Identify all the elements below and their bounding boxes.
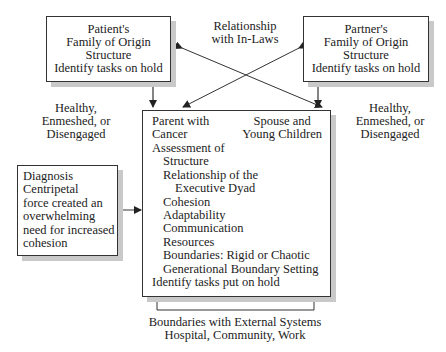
patient-family-of-origin-box: Patient's Family of Origin Structure Ide… [46, 16, 171, 82]
diagnosis-line: Centripetal [23, 183, 117, 196]
health-label-line: Disengaged [36, 128, 116, 141]
assessment-item: Communication [152, 222, 319, 235]
diagnosis-line: force created an [23, 197, 117, 210]
assessment-item: Executive Dyad [152, 182, 319, 195]
central-assessment-box: Parent with Cancer Spouse and Young Chil… [142, 110, 331, 297]
assessment-item: Generational Boundary Setting [152, 263, 319, 276]
diagnosis-line: need for increased [23, 224, 117, 237]
assessment-item: Structure [152, 155, 319, 168]
external-boundary-bracket [157, 300, 314, 310]
right-health-label: Healthy, Enmeshed, or Disengaged [350, 102, 430, 141]
assessment-heading: Assessment of [152, 142, 319, 155]
assessment-list: Assessment of Structure Relationship of … [152, 142, 319, 289]
diagnosis-line: cohesion [23, 237, 117, 250]
health-label-line: Disengaged [350, 128, 430, 141]
parent-line: Parent with [152, 115, 209, 128]
partner-box-line: Identify tasks on hold [304, 62, 428, 75]
diagnosis-box: Diagnosis Centripetal force created an o… [17, 165, 118, 256]
inlaws-label: Relationship with In-Laws [190, 20, 300, 46]
assessment-item: Cohesion [152, 196, 319, 209]
inlaw-arrow-partner-to-parent [183, 48, 299, 107]
assessment-item: Boundaries: Rigid or Chaotic [152, 249, 319, 262]
assessment-footer: Identify tasks put on hold [152, 276, 319, 289]
patient-box-line: Identify tasks on hold [47, 62, 170, 75]
assessment-item: Adaptability [152, 209, 319, 222]
parent-with-cancer-label: Parent with Cancer [152, 115, 209, 142]
partner-family-of-origin-box: Partner's Family of Origin Structure Ide… [303, 16, 429, 82]
diagnosis-line: overwhelming [23, 210, 117, 223]
spouse-line: Young Children [242, 128, 322, 141]
inlaws-label-line: with In-Laws [190, 33, 300, 46]
diagnosis-line: Diagnosis [23, 170, 117, 183]
assessment-item: Relationship of the [152, 169, 319, 182]
spouse-children-label: Spouse and Young Children [242, 115, 322, 142]
inlaw-arrow-patient-to-spouse [182, 48, 322, 107]
external-label-line: Hospital, Community, Work [130, 329, 340, 342]
spouse-line: Spouse and [242, 115, 322, 128]
parent-line: Cancer [152, 128, 209, 141]
external-systems-label: Boundaries with External Systems Hospita… [130, 316, 340, 342]
assessment-item: Resources [152, 236, 319, 249]
left-health-label: Healthy, Enmeshed, or Disengaged [36, 102, 116, 141]
